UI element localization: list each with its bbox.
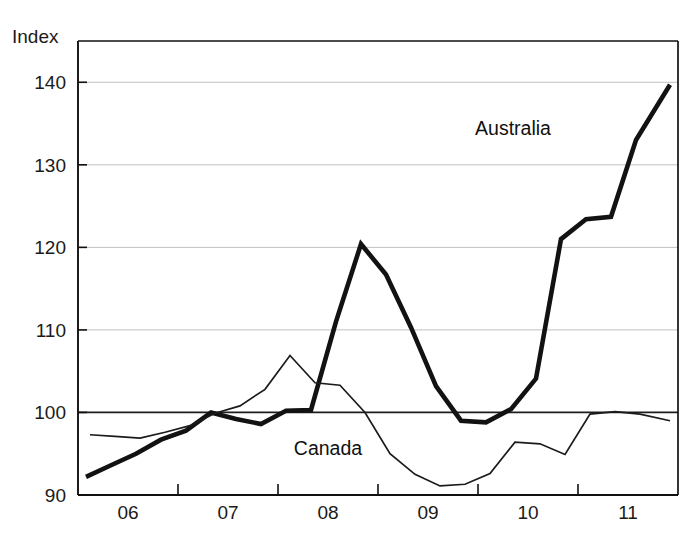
y-axis-title: Index xyxy=(12,26,59,47)
y-axis-tick-labels: 90100110120130140 xyxy=(34,72,66,506)
y-tick-label-120: 120 xyxy=(34,237,66,258)
line-chart: 90100110120130140 060708091011 Australia… xyxy=(0,0,700,544)
chart-container: 90100110120130140 060708091011 Australia… xyxy=(0,0,700,544)
x-tick-label-10: 10 xyxy=(517,502,538,523)
y-tick-label-100: 100 xyxy=(34,402,66,423)
y-tick-label-110: 110 xyxy=(36,320,66,341)
series-annotation-australia: Australia xyxy=(475,117,551,139)
y-tick-label-140: 140 xyxy=(34,72,66,93)
y-tick-label-130: 130 xyxy=(34,155,66,176)
series-annotation-canada: Canada xyxy=(294,437,362,459)
x-tick-label-11: 11 xyxy=(618,502,638,523)
x-tick-label-06: 06 xyxy=(117,502,138,523)
y-tick-label-90: 90 xyxy=(45,485,66,506)
x-tick-label-09: 09 xyxy=(417,502,438,523)
x-tick-label-08: 08 xyxy=(317,502,338,523)
x-tick-label-07: 07 xyxy=(217,502,238,523)
x-axis-tick-labels: 060708091011 xyxy=(117,502,637,523)
